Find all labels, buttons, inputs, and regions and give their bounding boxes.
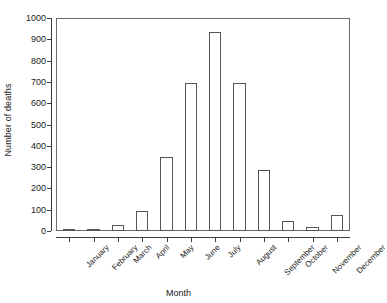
x-axis-title: Month bbox=[0, 288, 357, 298]
y-axis-tick-label: 900 bbox=[16, 34, 46, 44]
x-axis-tick-label: April bbox=[154, 243, 172, 261]
y-axis-tick bbox=[47, 210, 51, 211]
bar bbox=[87, 229, 100, 232]
y-axis-tick-labels: 01002003004005006007008009001000 bbox=[16, 0, 46, 303]
y-axis-tick bbox=[47, 188, 51, 189]
x-axis-tick-label: August bbox=[254, 243, 278, 267]
bar bbox=[160, 157, 173, 231]
y-axis-tick-label: 400 bbox=[16, 141, 46, 151]
x-axis-tick bbox=[215, 238, 216, 242]
bar bbox=[136, 211, 149, 231]
x-axis-tick bbox=[69, 238, 70, 242]
y-axis-tick-label: 100 bbox=[16, 205, 46, 215]
y-axis-tick-label: 600 bbox=[16, 98, 46, 108]
y-axis-tick-label: 800 bbox=[16, 56, 46, 66]
bar bbox=[258, 170, 271, 231]
bar bbox=[112, 225, 125, 231]
bar bbox=[209, 32, 222, 231]
x-axis-tick-labels: JanuaryFebruaryMarchAprilMayJuneJulyAugu… bbox=[56, 243, 350, 288]
bar bbox=[306, 227, 319, 231]
y-axis-tick-label: 200 bbox=[16, 183, 46, 193]
bar bbox=[63, 229, 76, 232]
y-axis-tick-label: 1000 bbox=[16, 13, 46, 23]
y-axis-line bbox=[51, 18, 52, 231]
y-axis-tick bbox=[47, 39, 51, 40]
x-axis-tick bbox=[313, 238, 314, 242]
x-axis-tick-label: June bbox=[203, 243, 222, 262]
x-axis-tick bbox=[191, 238, 192, 242]
bar bbox=[233, 83, 246, 231]
y-axis-tick-label: 0 bbox=[16, 226, 46, 236]
y-axis-tick bbox=[47, 61, 51, 62]
x-axis-tick-label: July bbox=[226, 243, 242, 259]
bar bbox=[185, 83, 198, 231]
x-axis-tick bbox=[240, 238, 241, 242]
y-axis-tick-label: 300 bbox=[16, 162, 46, 172]
bar bbox=[282, 221, 295, 231]
y-axis-tick bbox=[47, 82, 51, 83]
y-axis-tick bbox=[47, 18, 51, 19]
x-axis-tick bbox=[264, 238, 265, 242]
x-axis-tick bbox=[94, 238, 95, 242]
y-axis-title: Number of deaths bbox=[0, 0, 16, 240]
y-axis-tick bbox=[47, 146, 51, 147]
x-axis-tick bbox=[288, 238, 289, 242]
y-axis-tick bbox=[47, 231, 51, 232]
x-axis-tick-label: May bbox=[178, 243, 195, 260]
x-axis-tick bbox=[142, 238, 143, 242]
y-axis-title-text: Number of deaths bbox=[3, 83, 13, 156]
bar-series bbox=[57, 19, 349, 231]
x-axis-tick bbox=[118, 238, 119, 242]
x-axis-tick bbox=[167, 238, 168, 242]
y-axis-tick bbox=[47, 167, 51, 168]
y-axis-tick-label: 700 bbox=[16, 77, 46, 87]
y-axis-tick bbox=[47, 125, 51, 126]
x-axis-tick-label: January bbox=[84, 243, 110, 269]
x-axis-line bbox=[56, 237, 350, 238]
bar bbox=[331, 215, 344, 231]
x-axis-tick bbox=[337, 238, 338, 242]
y-axis-tick-label: 500 bbox=[16, 120, 46, 130]
y-axis-tick bbox=[47, 103, 51, 104]
